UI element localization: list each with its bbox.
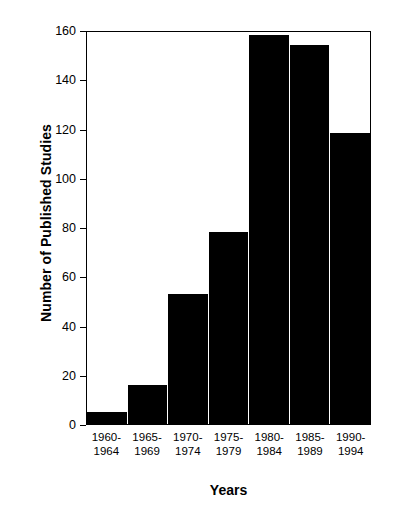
y-axis-tick-mark <box>80 425 86 426</box>
bar <box>87 412 127 424</box>
bar-slot <box>128 32 169 424</box>
y-axis-tick-label: 160 <box>40 25 76 37</box>
bar <box>168 294 208 425</box>
y-axis-tick-label: 0 <box>40 419 76 431</box>
bar <box>330 133 370 424</box>
x-axis-tick-label: 1985- 1989 <box>290 431 331 458</box>
x-axis-tick-label: 1970- 1974 <box>167 431 208 458</box>
y-axis-tick-label: 100 <box>40 173 76 185</box>
bar-slot <box>168 32 209 424</box>
x-axis-tick-labels: 1960- 19641965- 19691970- 19741975- 1979… <box>86 431 371 458</box>
bar-slot <box>209 32 250 424</box>
y-axis-tick-labels: 020406080100120140160 <box>40 31 76 425</box>
x-axis-tick-label: 1965- 1969 <box>127 431 168 458</box>
x-axis-tick-label: 1975- 1979 <box>208 431 249 458</box>
bar <box>249 35 289 424</box>
y-axis-tick-label: 60 <box>40 271 76 283</box>
bar <box>128 385 168 424</box>
bar-slot <box>330 32 370 424</box>
y-axis-tick-label: 140 <box>40 74 76 86</box>
x-axis-title: Years <box>86 482 371 498</box>
bar-slot <box>87 32 128 424</box>
bar-chart-figure: Number of Published Studies 020406080100… <box>0 0 394 509</box>
plot-area <box>86 31 371 425</box>
x-axis-tick-label: 1960- 1964 <box>86 431 127 458</box>
bar-slot <box>290 32 331 424</box>
bar-slot <box>249 32 290 424</box>
bar-series <box>87 32 370 424</box>
bar <box>290 45 330 424</box>
x-axis-tick-label: 1990- 1994 <box>330 431 371 458</box>
y-axis-tick-label: 20 <box>40 370 76 382</box>
y-axis-tick-label: 120 <box>40 124 76 136</box>
x-axis-tick-label: 1980- 1984 <box>249 431 290 458</box>
bar <box>209 232 249 424</box>
y-axis-tick-label: 80 <box>40 222 76 234</box>
y-axis-tick-label: 40 <box>40 321 76 333</box>
